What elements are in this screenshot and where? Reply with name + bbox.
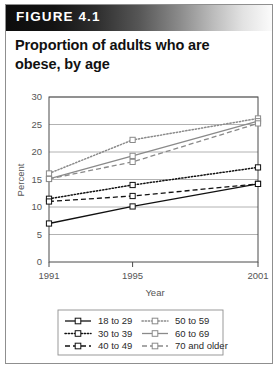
legend-label-60-to-69: 60 to 69	[175, 328, 209, 339]
data-point-70-and-older-1995	[130, 159, 135, 164]
series-line-60-to-69	[49, 121, 258, 179]
y-tick-label-15: 15	[31, 174, 42, 185]
legend-swatch-marker-18-to-29	[75, 318, 81, 324]
y-tick-label-25: 25	[31, 119, 42, 130]
y-axis-label: Percent	[15, 163, 26, 196]
gridlines	[49, 97, 258, 235]
y-tick-label-10: 10	[31, 201, 42, 212]
data-point-50-to-59-1991	[46, 171, 51, 176]
x-tick-label-1995: 1995	[122, 270, 143, 281]
data-point-50-to-59-1995	[130, 137, 135, 142]
data-point-40-to-49-1995	[130, 193, 135, 198]
y-tick-label-20: 20	[31, 146, 42, 157]
data-point-30-to-39-1995	[130, 182, 135, 187]
data-point-70-and-older-2001	[255, 121, 260, 126]
legend-swatch-marker-60-to-69	[152, 331, 158, 337]
data-point-40-to-49-1991	[46, 199, 51, 204]
legend-label-40-to-49: 40 to 49	[98, 340, 132, 351]
legend-label-70-and-older: 70 and older	[175, 340, 228, 351]
x-tick-label-2001: 2001	[247, 270, 268, 281]
series-line-50-to-59	[49, 118, 258, 173]
legend-swatch-marker-30-to-39	[75, 331, 81, 337]
series-line-40-to-49	[49, 184, 258, 202]
legend-swatch-marker-70-and-older	[152, 343, 158, 349]
legend-label-50-to-59: 50 to 59	[175, 315, 209, 326]
data-point-18-to-29-1991	[46, 221, 51, 226]
data-point-18-to-29-1995	[130, 204, 135, 209]
y-tick-label-0: 0	[37, 256, 42, 267]
line-chart: 051015202530 199119952001 Percent Year 1…	[0, 0, 278, 372]
legend-swatch-marker-40-to-49	[75, 343, 81, 349]
data-point-40-to-49-2001	[255, 181, 260, 186]
chart-legend: 18 to 2950 to 5930 to 3960 to 6940 to 49…	[58, 310, 228, 355]
y-axis-ticks: 051015202530	[31, 91, 42, 267]
x-axis-label: Year	[145, 287, 164, 298]
data-point-60-to-69-1995	[130, 153, 135, 158]
x-axis-ticks: 199119952001	[38, 262, 268, 281]
data-point-70-and-older-1991	[46, 176, 51, 181]
y-tick-label-5: 5	[37, 229, 42, 240]
data-point-30-to-39-2001	[255, 165, 260, 170]
legend-label-30-to-39: 30 to 39	[98, 328, 132, 339]
legend-swatch-marker-50-to-59	[152, 318, 158, 324]
figure-card: FIGURE 4.1 Proportion of adults who are …	[0, 0, 278, 372]
y-tick-label-30: 30	[31, 91, 42, 102]
series-line-18-to-29	[49, 184, 258, 224]
series-layer	[46, 116, 260, 226]
x-tick-label-1991: 1991	[38, 270, 59, 281]
legend-label-18-to-29: 18 to 29	[98, 315, 132, 326]
